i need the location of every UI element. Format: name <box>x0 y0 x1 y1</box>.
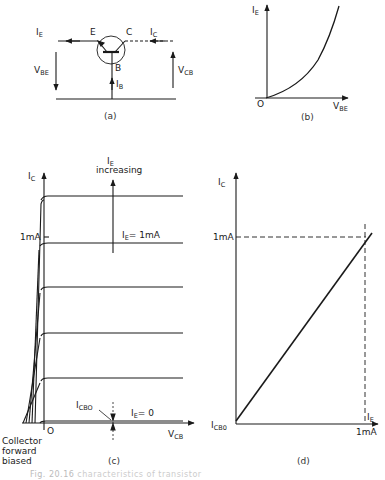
label-collector: C <box>126 28 132 37</box>
caption-c: (c) <box>108 456 120 466</box>
d-tick-y-1mA: 1mA <box>213 233 234 242</box>
c-x-label: VCB <box>168 430 183 439</box>
c-ie-0: IE= 0 <box>131 409 154 418</box>
label-ib: IB <box>116 80 123 89</box>
label-ic-a: IC <box>150 28 157 37</box>
transistor-circle <box>97 36 125 64</box>
label-emitter: E <box>90 28 96 37</box>
b-y-label: IE <box>252 6 259 15</box>
c-forward-1: Collector <box>2 437 42 446</box>
b-curve <box>266 6 339 98</box>
d-origin-icbo: ICB0 <box>211 421 227 430</box>
caption-d: (d) <box>297 456 310 466</box>
label-vcb: VCB <box>178 66 193 75</box>
d-transfer-line <box>236 233 372 421</box>
b-x-label: VBE <box>333 102 348 111</box>
figure-caption: Fig. 20.16 characteristics of transistor <box>30 470 202 479</box>
panel-b-chart <box>255 5 348 98</box>
c-ie-increasing-bottom: increasing <box>96 166 142 175</box>
c-icbo-label: ICBO <box>76 401 93 410</box>
label-vbe: VBE <box>34 66 49 75</box>
c-ie-1mA: IE= 1mA <box>122 231 160 240</box>
d-x-label: IE <box>367 413 374 422</box>
c-origin: O <box>47 427 54 436</box>
panel-c-chart <box>22 173 194 440</box>
b-origin: O <box>257 100 264 109</box>
caption-a: (a) <box>104 111 117 121</box>
c-forward-2: forward <box>2 447 37 456</box>
label-base: B <box>115 64 121 73</box>
d-tick-x-1mA: 1mA <box>356 428 377 437</box>
c-tick-1mA: 1mA <box>20 233 41 242</box>
c-y-label: IC <box>28 172 35 181</box>
caption-b: (b) <box>301 112 314 122</box>
panel-d-chart <box>236 173 378 424</box>
c-forward-3: biased <box>2 457 32 466</box>
label-ie-a: IE <box>36 28 43 37</box>
d-y-label: IC <box>218 178 225 187</box>
